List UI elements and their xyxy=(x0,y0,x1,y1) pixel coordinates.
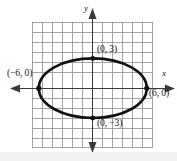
y-axis xyxy=(89,8,97,153)
point-left xyxy=(36,86,41,91)
bottom-margin-band xyxy=(0,152,177,161)
graph-canvas xyxy=(0,0,177,161)
point-label-top: (0, 3) xyxy=(97,45,117,55)
ellipse-figure: (0, 3) (0, −3) (−6, 0) (6, 0) x y xyxy=(0,0,177,161)
point-bottom xyxy=(90,116,95,121)
point-label-left: (−6, 0) xyxy=(7,69,32,79)
point-label-right: (6, 0) xyxy=(149,89,169,99)
point-top xyxy=(90,56,95,61)
y-axis-arrow-top xyxy=(89,8,97,19)
point-label-bottom: (0, −3) xyxy=(97,119,122,129)
y-axis-label: y xyxy=(84,4,88,13)
x-axis-arrow-left xyxy=(10,85,20,93)
x-axis-label: x xyxy=(162,69,166,78)
